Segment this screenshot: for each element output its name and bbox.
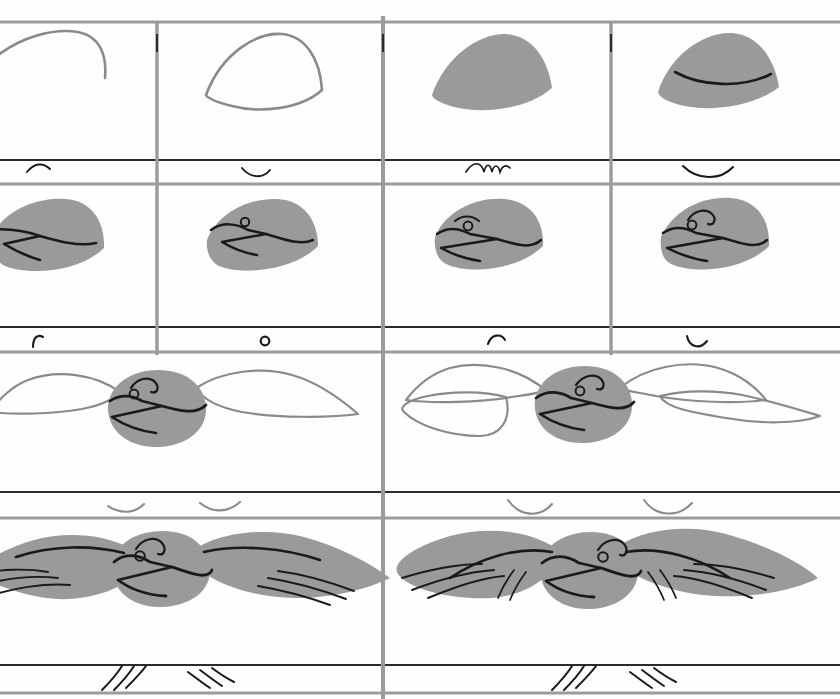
- sheet-canvas: [0, 0, 840, 699]
- shape-head-filled: [108, 370, 206, 447]
- drawing-sheet: Bird Drawing Step Sheet Hand-drawn penci…: [0, 0, 840, 699]
